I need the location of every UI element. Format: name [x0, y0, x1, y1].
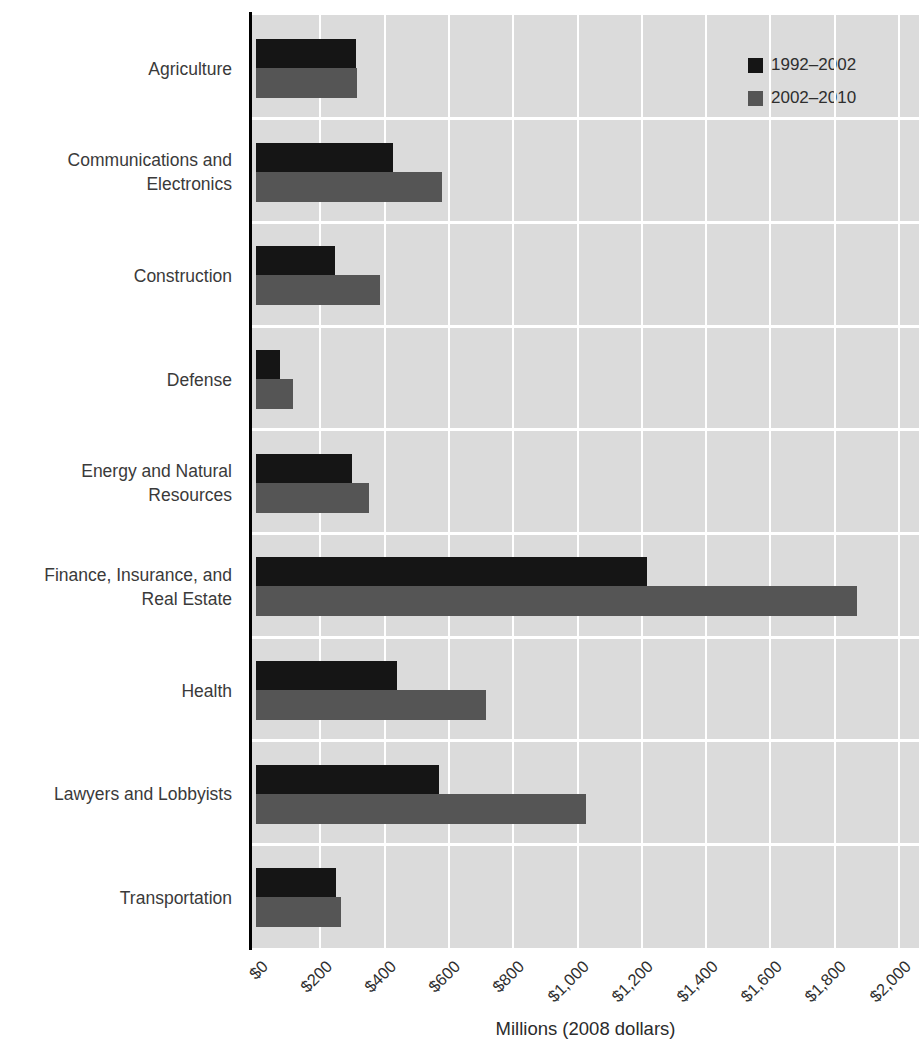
- bar-series2: [256, 794, 586, 824]
- legend-label: 1992–2002: [771, 55, 856, 75]
- y-axis-line: [249, 12, 252, 950]
- bar-series1: [256, 868, 336, 897]
- legend-swatch-icon: [748, 91, 763, 106]
- gridline-horizontal: [252, 532, 919, 535]
- bar-series1: [256, 350, 280, 379]
- legend: 1992–2002 2002–2010: [748, 55, 856, 108]
- bar-series2: [256, 379, 293, 409]
- bar-series2: [256, 690, 486, 720]
- category-label: Communications and Electronics: [0, 121, 232, 225]
- bar-series1: [256, 143, 393, 172]
- bar-chart-figure: 1992–2002 2002–2010 AgricultureCommunica…: [0, 0, 919, 1058]
- bar-series1: [256, 661, 397, 690]
- legend-label: 2002–2010: [771, 88, 856, 108]
- bar-series1: [256, 454, 352, 483]
- category-label: Agriculture: [0, 17, 232, 121]
- category-label: Construction: [0, 224, 232, 328]
- gridline-horizontal: [252, 739, 919, 742]
- bar-series2: [256, 586, 857, 616]
- bar-series2: [256, 68, 357, 98]
- gridline-vertical: [898, 15, 900, 948]
- bar-series2: [256, 483, 369, 513]
- gridline-horizontal: [252, 221, 919, 224]
- bar-series2: [256, 275, 380, 305]
- bar-series1: [256, 765, 439, 794]
- bar-series2: [256, 172, 442, 202]
- gridline-vertical: [705, 15, 707, 948]
- bar-series1: [256, 246, 335, 275]
- bar-series2: [256, 897, 341, 927]
- gridline-horizontal: [252, 117, 919, 120]
- gridline-vertical: [641, 15, 643, 948]
- legend-swatch-icon: [748, 58, 763, 73]
- legend-item-2002-2010: 2002–2010: [748, 88, 856, 108]
- gridline-horizontal: [252, 636, 919, 639]
- category-label: Finance, Insurance, and Real Estate: [0, 535, 232, 639]
- gridline-horizontal: [252, 843, 919, 846]
- gridline-horizontal: [252, 325, 919, 328]
- category-label: Transportation: [0, 846, 232, 950]
- plot-area: 1992–2002 2002–2010: [252, 15, 919, 948]
- category-label: Energy and Natural Resources: [0, 432, 232, 536]
- category-label: Defense: [0, 328, 232, 432]
- bar-series1: [256, 557, 647, 586]
- gridline-vertical: [834, 15, 836, 948]
- bar-series1: [256, 39, 356, 68]
- gridline-vertical: [769, 15, 771, 948]
- category-label: Lawyers and Lobbyists: [0, 743, 232, 847]
- legend-item-1992-2002: 1992–2002: [748, 55, 856, 75]
- gridline-horizontal: [252, 428, 919, 431]
- category-label: Health: [0, 639, 232, 743]
- x-axis-title: Millions (2008 dollars): [252, 1018, 919, 1040]
